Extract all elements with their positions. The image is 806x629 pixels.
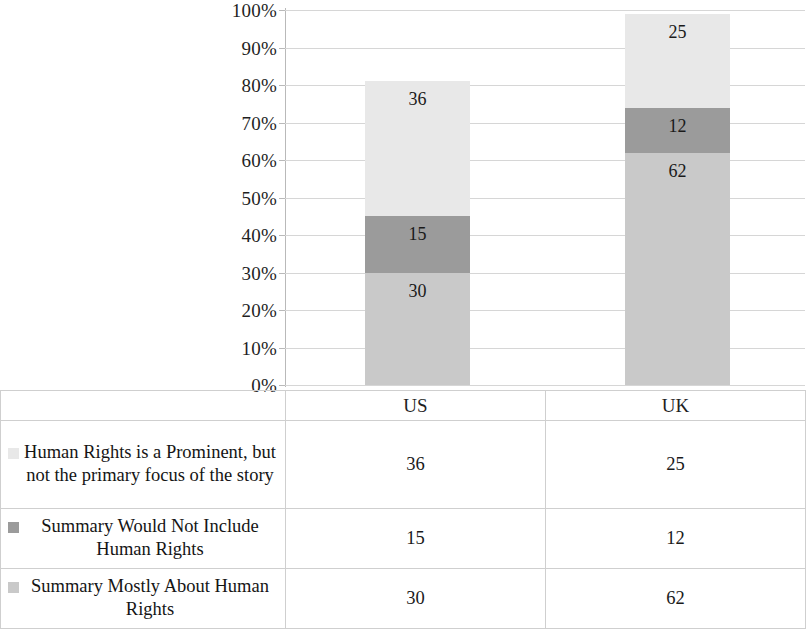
bar-segment-value: 15 — [409, 225, 427, 272]
bar-segment-value: 25 — [669, 23, 687, 108]
bar-segment-value: 30 — [409, 282, 427, 386]
bar-uk[interactable]: 25 12 62 — [625, 14, 730, 385]
bar-segment-uk-bottom[interactable]: 62 — [625, 153, 730, 386]
table-header-us: US — [286, 391, 546, 421]
category-label-us: US — [286, 391, 545, 420]
plot-area: 36 15 30 25 12 62 — [285, 10, 805, 385]
y-axis: 100% 90% 80% 70% 60% 50% 40% 30% 20% 10%… — [0, 0, 277, 390]
value-us: 15 — [286, 509, 546, 569]
legend-entry-would-not-include[interactable]: Summary Would Not Include Human Rights — [1, 509, 286, 569]
category-label-uk: UK — [546, 391, 805, 420]
legend-label: Summary Would Not Include Human Rights — [23, 515, 277, 561]
y-axis-tick-label: 100% — [0, 1, 277, 20]
bar-segment-value: 62 — [669, 162, 687, 386]
legend-label: Summary Mostly About Human Rights — [23, 575, 277, 621]
value-us: 30 — [286, 569, 546, 629]
legend-entry-mostly-about[interactable]: Summary Mostly About Human Rights — [1, 569, 286, 629]
table-header-row: US UK — [1, 391, 806, 421]
value-uk: 25 — [546, 421, 806, 509]
value-us: 36 — [286, 421, 546, 509]
legend-swatch-icon — [8, 522, 19, 533]
legend-entry-prominent[interactable]: Human Rights is a Prominent, but not the… — [1, 421, 286, 509]
table-row: Summary Would Not Include Human Rights 1… — [1, 509, 806, 569]
stacked-bar-chart: 100% 90% 80% 70% 60% 50% 40% 30% 20% 10%… — [0, 0, 805, 390]
y-axis-tick-label: 40% — [0, 226, 277, 245]
value-uk: 12 — [546, 509, 806, 569]
legend-swatch-icon — [8, 448, 19, 459]
bar-segment-us-middle[interactable]: 15 — [365, 216, 470, 272]
table-row: Human Rights is a Prominent, but not the… — [1, 421, 806, 509]
gridline — [285, 385, 805, 386]
gridline — [285, 10, 805, 11]
y-axis-tick-label: 10% — [0, 339, 277, 358]
bar-us[interactable]: 36 15 30 — [365, 81, 470, 385]
bar-segment-us-top[interactable]: 36 — [365, 81, 470, 216]
y-axis-tick-label: 70% — [0, 114, 277, 133]
bar-segment-uk-middle[interactable]: 12 — [625, 108, 730, 153]
bar-segment-us-bottom[interactable]: 30 — [365, 273, 470, 386]
value-uk: 62 — [546, 569, 806, 629]
y-axis-tick-label: 20% — [0, 301, 277, 320]
y-axis-tick-label: 50% — [0, 189, 277, 208]
bar-segment-uk-top[interactable]: 25 — [625, 14, 730, 108]
y-axis-tick-label: 30% — [0, 264, 277, 283]
legend-swatch-icon — [8, 582, 19, 593]
table-row: Summary Mostly About Human Rights 30 62 — [1, 569, 806, 629]
bar-segment-value: 12 — [669, 117, 687, 153]
bar-segment-value: 36 — [409, 90, 427, 216]
legend-label: Human Rights is a Prominent, but not the… — [23, 441, 277, 487]
y-axis-tick-label: 60% — [0, 151, 277, 170]
table-header-blank — [1, 391, 286, 421]
table-header-uk: UK — [546, 391, 806, 421]
y-axis-tick-label: 90% — [0, 39, 277, 58]
y-axis-tick-label: 80% — [0, 76, 277, 95]
legend-data-table: US UK Human Rights is a Prominent, but n… — [0, 390, 806, 629]
